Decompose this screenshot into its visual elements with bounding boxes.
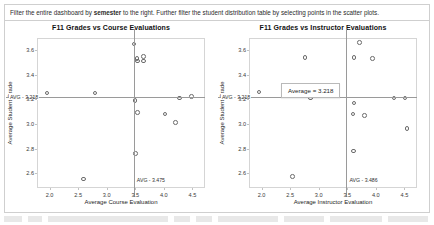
charts-container: F11 Grades vs Course Evaluations Average…	[4, 21, 430, 213]
x-axis-tick-mark	[107, 188, 108, 190]
y-axis-tick-label: 3.2	[26, 96, 34, 102]
y-axis-tick-mark	[247, 173, 249, 174]
x-axis-tick-label: 2.0	[258, 192, 266, 198]
scatter-point[interactable]	[257, 90, 262, 95]
x-axis-tick-mark	[164, 188, 165, 190]
y-axis-tick-label: 3.6	[26, 47, 34, 53]
scatter-point[interactable]	[405, 126, 410, 131]
scatter-point[interactable]	[163, 112, 168, 117]
x-axis-tick-mark	[135, 188, 136, 190]
y-axis-tick-mark	[35, 149, 37, 150]
bottom-block	[4, 216, 22, 222]
scatter-point[interactable]	[173, 120, 178, 125]
bottom-block	[330, 216, 382, 222]
y-axis-tick-label: 2.8	[26, 146, 34, 152]
x-axis-tick-label: 2.5	[74, 192, 82, 198]
y-axis-tick-mark	[247, 50, 249, 51]
reference-line-vertical	[134, 29, 135, 197]
bottom-panel-blocks	[4, 216, 430, 225]
x-axis-tick-label: 2.5	[286, 192, 294, 198]
x-axis-tick-mark	[404, 188, 405, 190]
scatter-point[interactable]	[351, 149, 356, 154]
reference-line-label-vertical: AVG - 3.475	[136, 177, 166, 183]
y-axis-tick-mark	[35, 50, 37, 51]
x-axis-tick-mark	[347, 188, 348, 190]
x-axis-tick-mark	[50, 188, 51, 190]
y-axis-tick-label: 3.6	[238, 47, 246, 53]
dashboard: Filter the entire dashboard by semester …	[0, 0, 434, 225]
chart-title-instructor: F11 Grades vs Instructor Evaluations	[217, 24, 429, 31]
scatter-point[interactable]	[352, 55, 357, 60]
plot-wrap-instructor: Average Student Grade Average Instructor…	[249, 38, 417, 188]
scatter-point[interactable]	[45, 91, 50, 96]
y-axis-tick-label: 3.0	[26, 121, 34, 127]
x-axis-tick-label: 4.5	[189, 192, 197, 198]
x-axis-tick-mark	[192, 188, 193, 190]
x-axis-tick-label: 3.5	[131, 192, 139, 198]
scatter-panel-course: F11 Grades vs Course Evaluations Average…	[5, 21, 217, 212]
y-axis-label-instructor: Average Student Grade	[219, 82, 225, 145]
scatter-point[interactable]	[357, 40, 362, 45]
plot-area-course[interactable]	[37, 38, 205, 188]
x-axis-tick-label: 4.0	[372, 192, 380, 198]
x-axis-tick-label: 3.5	[343, 192, 351, 198]
y-axis-tick-mark	[35, 124, 37, 125]
chart-title-course: F11 Grades vs Course Evaluations	[5, 24, 217, 31]
scatter-point[interactable]	[370, 56, 375, 61]
y-axis-tick-label: 3.0	[238, 121, 246, 127]
instruction-text: Filter the entire dashboard by semester …	[10, 8, 379, 17]
reference-line-vertical	[346, 29, 347, 197]
instruction-bold-word: semester	[94, 9, 122, 16]
bottom-block	[174, 216, 190, 222]
bottom-block	[284, 216, 324, 222]
bottom-panel-peek	[4, 214, 430, 225]
x-axis-tick-mark	[319, 188, 320, 190]
average-tooltip: Average = 3.218	[281, 83, 340, 98]
x-axis-tick-label: 4.5	[401, 192, 409, 198]
instruction-text-before: Filter the entire dashboard by	[10, 9, 94, 16]
x-axis-tick-label: 4.0	[160, 192, 168, 198]
y-axis-tick-mark	[247, 124, 249, 125]
scatter-point[interactable]	[141, 59, 146, 64]
scatter-point[interactable]	[135, 59, 140, 64]
bottom-block	[388, 216, 428, 222]
scatter-point[interactable]	[81, 177, 86, 182]
x-axis-tick-mark	[262, 188, 263, 190]
y-axis-label-course: Average Student Grade	[7, 82, 13, 145]
x-axis-tick-label: 3.0	[103, 192, 111, 198]
x-axis-label-course: Average Course Evaluation	[37, 199, 205, 205]
x-axis-tick-mark	[290, 188, 291, 190]
scatter-point[interactable]	[93, 91, 98, 96]
x-axis-tick-label: 3.0	[315, 192, 323, 198]
bottom-block	[218, 216, 278, 222]
y-axis-tick-mark	[247, 149, 249, 150]
y-axis-tick-mark	[247, 75, 249, 76]
scatter-point[interactable]	[362, 113, 367, 118]
scatter-point[interactable]	[352, 101, 357, 106]
y-axis-tick-label: 3.2	[238, 96, 246, 102]
y-axis-tick-label: 2.8	[238, 146, 246, 152]
y-axis-tick-mark	[35, 75, 37, 76]
y-axis-tick-mark	[35, 99, 37, 100]
bottom-block	[28, 216, 42, 222]
scatter-point[interactable]	[351, 112, 356, 117]
y-axis-tick-label: 3.4	[238, 72, 246, 78]
reference-line-label-vertical: AVG - 3.486	[348, 177, 378, 183]
plot-area-instructor[interactable]	[249, 38, 417, 188]
bottom-block	[196, 216, 212, 222]
instruction-text-after: to the right. Further filter the student…	[121, 9, 379, 16]
y-axis-tick-mark	[35, 173, 37, 174]
x-axis-tick-mark	[78, 188, 79, 190]
instruction-banner: Filter the entire dashboard by semester …	[4, 4, 430, 21]
y-axis-tick-label: 3.4	[26, 72, 34, 78]
y-axis-tick-label: 2.6	[238, 170, 246, 176]
x-axis-tick-mark	[376, 188, 377, 190]
scatter-point[interactable]	[290, 174, 295, 179]
plot-wrap-course: Average Student Grade Average Course Eva…	[37, 38, 205, 188]
scatter-point[interactable]	[141, 54, 146, 59]
scatter-panel-instructor: F11 Grades vs Instructor Evaluations Ave…	[217, 21, 429, 212]
scatter-point[interactable]	[303, 55, 308, 60]
x-axis-label-instructor: Average Instructor Evaluation	[249, 199, 417, 205]
bottom-block	[48, 216, 168, 222]
scatter-point[interactable]	[135, 110, 140, 115]
